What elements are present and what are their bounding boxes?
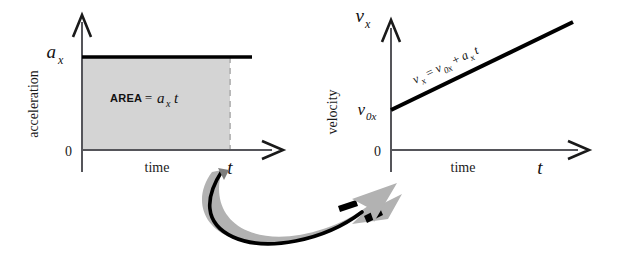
right-y-axis-symbol-subscript: x: [364, 17, 371, 31]
curved-arrow-notch-upper: [338, 200, 358, 212]
left-y-value-label: a x: [47, 41, 65, 67]
left-y-axis-label: acceleration: [26, 70, 41, 138]
left-x-mark-label: t: [227, 157, 233, 178]
right-y-axis-label: velocity: [325, 89, 340, 134]
area-expression-subscript: x: [165, 98, 171, 109]
figure-canvas: acceleration time 0 a x t AREA = a x t: [0, 0, 621, 263]
equation-v2-subscript: 0x: [442, 63, 454, 76]
shaded-area-rect: [82, 57, 230, 150]
intercept-symbol-v: v: [357, 100, 365, 119]
equation-v1-subscript: x: [419, 76, 428, 87]
velocity-graph: velocity time 0 v x v 0x t v x = v: [325, 5, 589, 178]
area-equals-sign: =: [144, 90, 153, 105]
intercept-label: v 0x: [357, 100, 376, 122]
velocity-curve: [391, 22, 573, 110]
area-word: AREA: [110, 92, 142, 104]
right-x-axis-label: time: [451, 160, 476, 175]
left-y-value-subscript: x: [57, 53, 64, 67]
right-y-axis-symbol-v: v: [356, 5, 365, 26]
curved-arrow: [202, 168, 402, 244]
left-x-axis-label: time: [145, 160, 170, 175]
left-origin-label: 0: [65, 144, 72, 159]
physics-figure: acceleration time 0 a x t AREA = a x t: [0, 0, 621, 263]
acceleration-graph: acceleration time 0 a x t AREA = a x t: [26, 15, 283, 178]
right-x-mark-label: t: [537, 157, 543, 178]
left-y-value-symbol: a: [47, 41, 57, 62]
area-expression-a: a: [157, 90, 165, 106]
intercept-subscript: 0x: [366, 110, 377, 122]
right-origin-label: 0: [374, 144, 381, 159]
right-y-axis-symbol: v x: [356, 5, 371, 31]
